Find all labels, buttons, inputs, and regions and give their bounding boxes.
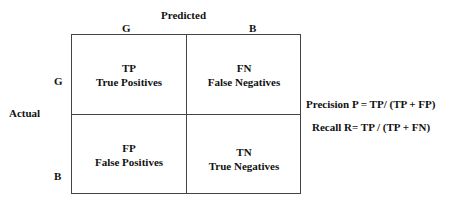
predicted-axis-label: Predicted (161, 9, 206, 21)
cell-abbr: TN (236, 145, 251, 159)
cell-name: True Negatives (209, 159, 279, 173)
cell-true-negatives: TN True Negatives (187, 119, 301, 198)
row-label-g: G (54, 75, 63, 87)
cell-abbr: TP (122, 61, 136, 75)
column-label-b: B (249, 22, 256, 34)
cell-true-positives: TP True Positives (72, 35, 186, 114)
confusion-matrix: TP True Positives FN False Negatives FP … (71, 34, 301, 194)
actual-axis-label: Actual (9, 107, 40, 119)
cell-name: False Negatives (208, 75, 280, 89)
column-label-g: G (122, 22, 131, 34)
row-label-b: B (54, 170, 61, 182)
cell-abbr: FN (237, 61, 252, 75)
precision-formula: Precision P = TP/ (TP + FP) (306, 98, 435, 110)
cell-name: True Positives (96, 75, 162, 89)
recall-formula: Recall R= TP / (TP + FN) (312, 121, 430, 133)
cell-name: False Positives (95, 155, 163, 169)
cell-false-negatives: FN False Negatives (187, 35, 301, 114)
cell-false-positives: FP False Positives (72, 115, 186, 194)
cell-abbr: FP (122, 141, 135, 155)
